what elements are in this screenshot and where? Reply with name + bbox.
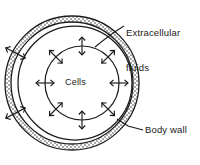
label-cells: Cells [65,77,86,89]
label-extracellular-line2: fluids [126,62,180,74]
label-body-wall: Body wall [145,124,187,136]
figure-canvas: Extracellular fluids Body wall Cells [0,0,200,165]
label-extracellular-fluids: Extracellular fluids [126,4,180,96]
label-extracellular-line1: Extracellular [126,27,180,39]
